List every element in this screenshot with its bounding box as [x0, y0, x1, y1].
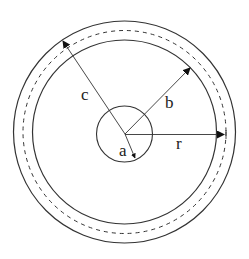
outer-boundary-circle — [14, 21, 236, 243]
inner-boundary-circle — [33, 40, 217, 224]
label-c: c — [81, 85, 89, 104]
radius-b-arrow — [125, 68, 190, 134]
middle-dashed-circle — [23, 31, 226, 234]
label-b: b — [165, 93, 174, 112]
concentric-circles-diagram: c b r a — [0, 0, 249, 259]
label-r: r — [176, 134, 182, 153]
label-a: a — [119, 141, 127, 160]
radius-c-arrow — [63, 41, 125, 134]
